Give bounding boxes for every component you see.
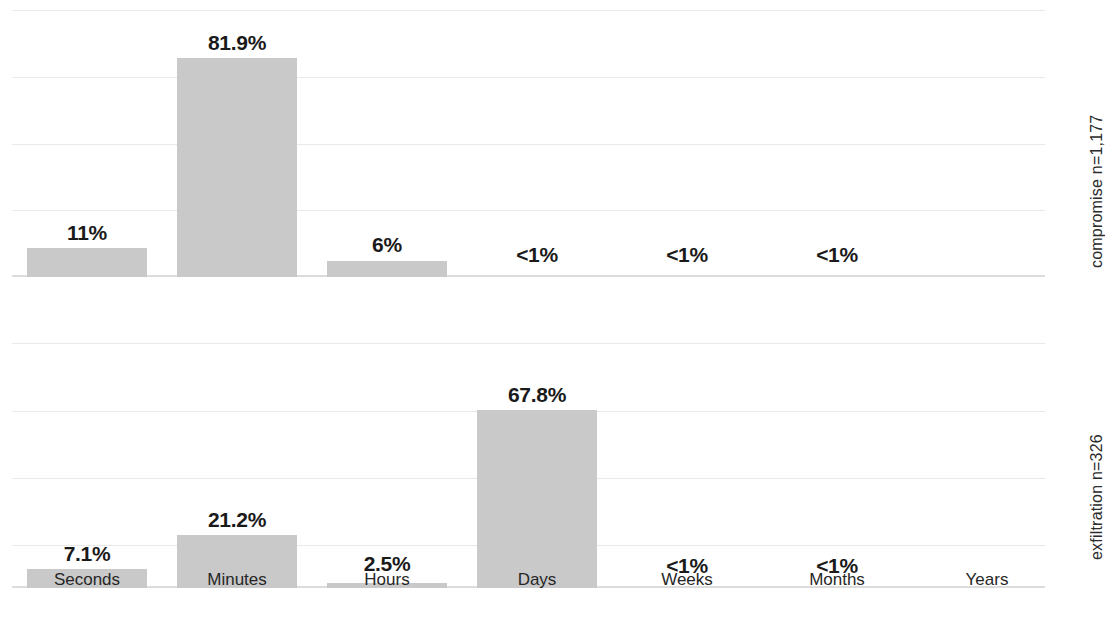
category-label-weeks: Weeks (612, 570, 762, 590)
bar-compromise-seconds (27, 248, 147, 277)
bar-slot (912, 343, 1062, 588)
chart-figure: 11% 81.9% 6% <1% <1% <1% (0, 0, 1112, 627)
category-label-months: Months (762, 570, 912, 590)
bar-value-label: 7.1% (12, 542, 162, 566)
bar-slot: 2.5% (312, 343, 462, 588)
bar-value-label: 21.2% (162, 508, 312, 532)
bar-slot: <1% (762, 343, 912, 588)
bar-value-label: <1% (762, 243, 912, 267)
bar-compromise-hours (327, 261, 447, 277)
category-label-years: Years (912, 570, 1062, 590)
bar-slot: 81.9% (162, 10, 312, 277)
plot-area-compromise: 11% 81.9% 6% <1% <1% <1% (12, 10, 1045, 277)
bar-slot: 21.2% (162, 343, 312, 588)
bar-slot: 6% (312, 10, 462, 277)
bar-slot: <1% (762, 10, 912, 277)
chart-panel-exfiltration: 7.1% 21.2% 2.5% 67.8% <1% <1% (0, 300, 1045, 562)
bar-slot: <1% (462, 10, 612, 277)
category-label-days: Days (462, 570, 612, 590)
category-axis: Seconds Minutes Hours Days Weeks Months … (12, 570, 1045, 600)
series-label-exfiltration: exfiltration n=326 (1088, 330, 1106, 560)
bar-value-label: <1% (462, 243, 612, 267)
bar-value-label: <1% (612, 243, 762, 267)
bar-exfiltration-days (477, 410, 597, 588)
category-label-minutes: Minutes (162, 570, 312, 590)
bar-value-label: 81.9% (162, 31, 312, 55)
bar-slot: <1% (612, 10, 762, 277)
category-label-seconds: Seconds (12, 570, 162, 590)
chart-panel-compromise: 11% 81.9% 6% <1% <1% <1% (0, 0, 1045, 300)
bar-value-label: 6% (312, 233, 462, 257)
series-label-compromise: compromise n=1,177 (1088, 18, 1106, 268)
plot-area-exfiltration: 7.1% 21.2% 2.5% 67.8% <1% <1% (12, 343, 1045, 588)
category-label-hours: Hours (312, 570, 462, 590)
bar-slot: <1% (612, 343, 762, 588)
bar-value-label: 11% (12, 221, 162, 245)
bar-slot: 67.8% (462, 343, 612, 588)
bar-compromise-minutes (177, 58, 297, 277)
bar-slot: 11% (12, 10, 162, 277)
bar-value-label: 67.8% (462, 383, 612, 407)
bar-slot: 7.1% (12, 343, 162, 588)
bar-slot (912, 10, 1062, 277)
